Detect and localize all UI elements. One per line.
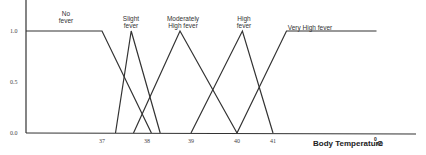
axes (26, 0, 416, 134)
x-axis-title: Body Temperature 0 C (313, 136, 384, 148)
y-tick-labels: 0.00.51.0 (10, 28, 18, 136)
series-label: Highfever (237, 15, 252, 29)
series-label: Nofever (59, 10, 74, 24)
y-tick-label: 0.5 (10, 79, 18, 85)
series-label: Slightfever (123, 15, 139, 29)
x-axis (26, 133, 416, 134)
series-label: ModeratelyHigh fever (167, 15, 200, 30)
x-tick-label: 38 (144, 138, 150, 144)
fuzzy-membership-chart: 0.00.51.0 3738394041 NofeverSlightfeverM… (0, 0, 426, 155)
membership-labels: NofeverSlightfeverModeratelyHigh feverHi… (59, 10, 333, 32)
y-tick-label: 1.0 (10, 28, 18, 34)
series-line-no-fever (26, 31, 151, 133)
x-axis-unit-c: C (377, 139, 383, 148)
x-tick-label: 39 (188, 138, 194, 144)
series-line-slight-fever (116, 31, 161, 133)
series-label: Very High fever (288, 24, 333, 32)
x-tick-label: 37 (99, 138, 105, 144)
series-line-high-fever (191, 31, 273, 133)
x-tick-labels: 3738394041 (99, 138, 276, 144)
x-tick-label: 40 (234, 138, 240, 144)
y-tick-label: 0.0 (10, 130, 18, 136)
x-tick-label: 41 (270, 138, 276, 144)
series-line-moderately-high-fever (134, 31, 238, 133)
membership-functions (26, 31, 377, 133)
